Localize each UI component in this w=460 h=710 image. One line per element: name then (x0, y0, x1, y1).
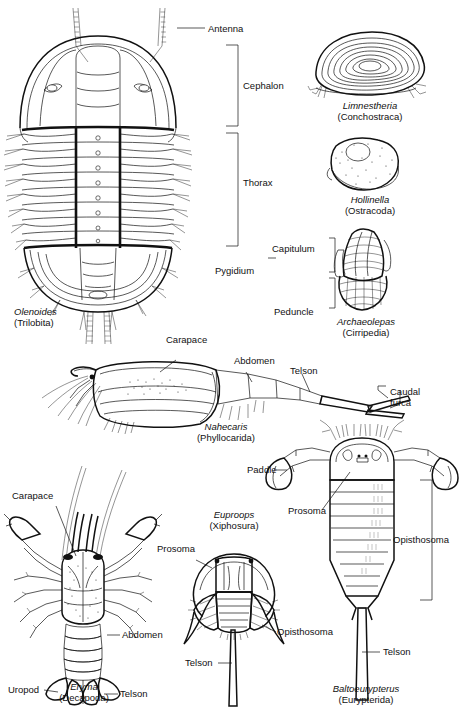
caption-genus: Limnestheria (304, 100, 436, 111)
caption-genus: Baltoeurypterus (300, 683, 432, 694)
euproops-figure (184, 554, 284, 706)
label-capitulum: Capitulum (272, 243, 315, 254)
caption-archaeolepas: Archaeolepas (Cirripedia) (300, 316, 432, 338)
caption-genus: Olenoides (14, 306, 134, 317)
label-carapace-eryma: Carapace (12, 490, 53, 501)
caption-group: (Eurypterida) (300, 694, 432, 705)
label-opisthosoma-eurypterid: Opisthosoma (393, 534, 449, 545)
antenna-left (73, 8, 88, 62)
olenoides-figure (20, 8, 176, 142)
label-cephalon: Cephalon (243, 80, 284, 91)
label-paddle-eurypterid: Paddle (247, 464, 277, 475)
label-caudal-furca: Caudal furca (390, 386, 420, 408)
caption-limnestheria: Limnestheria (Conchostraca) (304, 100, 436, 122)
caption-group: (Decapoda) (28, 692, 140, 703)
opisthosoma-leader-euproops (262, 625, 276, 632)
caption-group: (Cirripedia) (300, 327, 432, 338)
eryma-figure (4, 466, 162, 705)
olenoides-pygidium (18, 248, 178, 344)
label-telson-euproops: Telson (185, 657, 212, 668)
cheliped-left (4, 514, 62, 576)
label-telson-eurypterid: Telson (383, 646, 410, 657)
caption-olenoides: Olenoides (Trilobita) (14, 306, 134, 328)
caudal-furca-leader-a (378, 386, 388, 398)
caption-group: (Trilobita) (14, 317, 134, 328)
caption-genus: Euproops (178, 509, 290, 520)
caption-hollinella: Hollinella (Ostracoda) (304, 194, 436, 216)
archaeolepas-figure (334, 229, 390, 310)
carapace-leader-eryma (56, 506, 76, 556)
caption-nahecaris: Nahecaris (Phyllocarida) (166, 421, 286, 443)
abdomen-leader-nahecaris (246, 372, 252, 382)
label-prosoma-euproops: Prosoma (157, 543, 195, 554)
label-prosoma-eurypterid: Prosoma (288, 505, 326, 516)
label-telson-nahecaris: Telson (290, 365, 317, 376)
label-abdomen-eryma: Abdomen (122, 629, 163, 640)
label-thorax: Thorax (243, 177, 273, 188)
cheliped-right (104, 514, 162, 576)
olenoides-thorax (4, 127, 192, 250)
caption-group: (Ostracoda) (304, 205, 436, 216)
baltoeurypterus-figure (266, 420, 458, 700)
caption-genus: Hollinella (304, 194, 436, 205)
label-opisthosoma-euproops: Opisthosoma (277, 626, 333, 637)
label-pygidium: Pygidium (215, 265, 254, 276)
label-antenna: Antenna (208, 23, 243, 34)
caption-euproops: Euproops (Xiphosura) (178, 509, 290, 531)
label-abdomen-nahecaris: Abdomen (234, 355, 275, 366)
hollinella-figure (327, 138, 398, 190)
caption-group: (Xiphosura) (178, 520, 290, 531)
caption-genus: Nahecaris (166, 421, 286, 432)
thorax-bracket (226, 133, 238, 246)
caption-baltoeurypterus: Baltoeurypterus (Eurypterida) (300, 683, 432, 705)
thoracic-segments (4, 127, 192, 250)
eryma-abdomen (64, 624, 102, 680)
cephalon-bracket (226, 45, 238, 126)
label-carapace-nahecaris: Carapace (166, 334, 207, 345)
caption-genus: Eryma (28, 681, 140, 692)
caption-group: (Phyllocarida) (166, 432, 286, 443)
peduncle-bracket (329, 278, 335, 308)
illustration-plate: Antenna Cephalon Thorax Pygidium Capitul… (0, 0, 460, 710)
eurypterid-opisthosoma (330, 480, 394, 620)
caption-eryma: Eryma (Decapoda) (28, 681, 140, 703)
limnestheria-figure (308, 32, 426, 98)
caption-genus: Archaeolepas (300, 316, 432, 327)
caption-group: (Conchostraca) (304, 111, 436, 122)
antenna-right (150, 8, 166, 62)
